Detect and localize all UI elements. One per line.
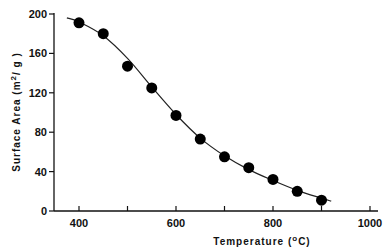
data-point [74,17,85,28]
x-tick-label: 800 [264,217,282,229]
y-tick-label: 0 [41,205,47,217]
fitted-curve [67,18,331,201]
data-point [292,186,303,197]
y-tick-label: 80 [35,126,47,138]
data-point [219,151,230,162]
data-point [195,134,206,145]
y-tick-label: 40 [35,166,47,178]
x-axis-label: Temperature (oC) [213,234,310,247]
data-point [146,82,157,93]
data-point [98,28,109,39]
data-point [171,110,182,121]
x-tick-label: 1000 [358,217,382,229]
axis-ticks: 040801201602004006008001000 [29,8,383,229]
y-tick-label: 120 [29,87,47,99]
x-tick-label: 600 [167,217,185,229]
data-point [122,61,133,72]
data-points [74,17,328,205]
x-tick-label: 400 [70,217,88,229]
y-tick-label: 160 [29,47,47,59]
chart: 040801201602004006008001000 Temperature … [0,0,392,251]
data-point [316,195,327,206]
data-point [243,162,254,173]
axes [54,13,378,211]
y-axis-label: Surface Area (m2/ g ) [9,52,22,172]
data-point [268,174,279,185]
y-tick-label: 200 [29,8,47,20]
